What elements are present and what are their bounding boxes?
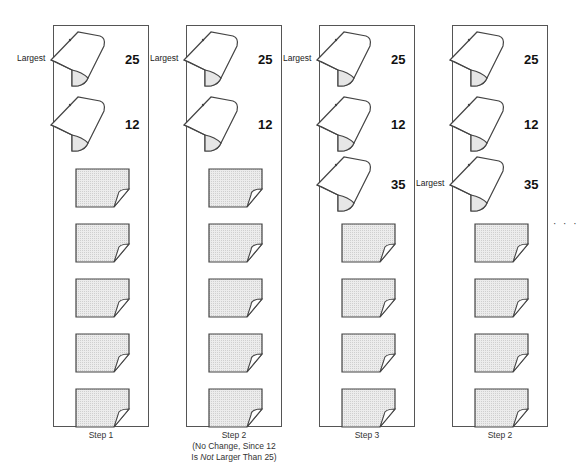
face-down-card-icon bbox=[74, 332, 134, 374]
turned-card-icon bbox=[181, 95, 251, 155]
face-down-card-icon bbox=[340, 277, 400, 319]
face-down-card bbox=[186, 167, 282, 222]
card-value: 35 bbox=[524, 177, 538, 192]
face-down-card-icon bbox=[74, 222, 134, 264]
turned-card: 35Largest bbox=[452, 155, 548, 210]
card-value: 25 bbox=[391, 52, 405, 67]
card-value: 12 bbox=[524, 117, 538, 132]
continuation-ellipsis: · · · bbox=[553, 218, 579, 229]
turned-card-icon bbox=[314, 95, 384, 155]
step-column: 25Largest 12 bbox=[53, 25, 149, 427]
turned-card: 12 bbox=[452, 95, 548, 150]
turned-card: 12 bbox=[186, 95, 282, 150]
largest-marker-label: Largest bbox=[283, 53, 311, 63]
turned-card: 35 bbox=[319, 155, 415, 210]
largest-marker-label: Largest bbox=[150, 53, 178, 63]
face-down-card bbox=[319, 277, 415, 332]
turned-card-icon bbox=[447, 30, 517, 90]
face-down-card-icon bbox=[74, 387, 134, 429]
face-down-card-icon bbox=[74, 277, 134, 319]
turned-card-icon bbox=[447, 95, 517, 155]
face-down-card-icon bbox=[340, 387, 400, 429]
face-down-card bbox=[53, 222, 149, 277]
step-column: 25 12 35Largest bbox=[452, 25, 548, 427]
step-label-line: Step 2 bbox=[422, 430, 578, 441]
turned-card-icon bbox=[48, 95, 118, 155]
turned-card: 25Largest bbox=[319, 30, 415, 85]
face-down-card-icon bbox=[207, 332, 267, 374]
face-down-card-icon bbox=[74, 167, 134, 209]
face-down-card-icon bbox=[207, 387, 267, 429]
face-down-card-icon bbox=[473, 387, 533, 429]
card-value: 25 bbox=[524, 52, 538, 67]
face-down-card-icon bbox=[207, 277, 267, 319]
face-down-card-icon bbox=[473, 222, 533, 264]
turned-card-icon bbox=[48, 30, 118, 90]
face-down-card bbox=[186, 222, 282, 277]
step-column: 25Largest 12 35 bbox=[319, 25, 415, 427]
face-down-card-icon bbox=[207, 222, 267, 264]
face-down-card bbox=[452, 277, 548, 332]
card-value: 12 bbox=[258, 117, 272, 132]
card-value: 25 bbox=[125, 52, 139, 67]
step-label-line: (No Change, Since 12 bbox=[156, 441, 312, 452]
turned-card-icon bbox=[314, 155, 384, 215]
face-down-card bbox=[53, 277, 149, 332]
largest-marker-label: Largest bbox=[416, 178, 444, 188]
face-down-card bbox=[452, 332, 548, 387]
turned-card-icon bbox=[447, 155, 517, 215]
turned-card-icon bbox=[181, 30, 251, 90]
face-down-card bbox=[53, 332, 149, 387]
face-down-card bbox=[53, 167, 149, 222]
card-value: 35 bbox=[391, 177, 405, 192]
turned-card-icon bbox=[314, 30, 384, 90]
turned-card: 25Largest bbox=[186, 30, 282, 85]
turned-card: 12 bbox=[319, 95, 415, 150]
face-down-card bbox=[319, 222, 415, 277]
face-down-card-icon bbox=[207, 167, 267, 209]
step-label-line: Is Not Larger Than 25) bbox=[156, 452, 312, 463]
face-down-card bbox=[186, 277, 282, 332]
largest-marker-label: Largest bbox=[17, 53, 45, 63]
face-down-card bbox=[452, 222, 548, 277]
turned-card: 25 bbox=[452, 30, 548, 85]
face-down-card bbox=[186, 332, 282, 387]
turned-card: 25Largest bbox=[53, 30, 149, 85]
face-down-card-icon bbox=[340, 332, 400, 374]
card-value: 25 bbox=[258, 52, 272, 67]
turned-card: 12 bbox=[53, 95, 149, 150]
step-label: Step 2 bbox=[422, 430, 578, 441]
face-down-card bbox=[319, 332, 415, 387]
step-column: 25Largest 12 bbox=[186, 25, 282, 427]
card-value: 12 bbox=[391, 117, 405, 132]
face-down-card-icon bbox=[473, 332, 533, 374]
card-value: 12 bbox=[125, 117, 139, 132]
face-down-card-icon bbox=[473, 277, 533, 319]
face-down-card-icon bbox=[340, 222, 400, 264]
